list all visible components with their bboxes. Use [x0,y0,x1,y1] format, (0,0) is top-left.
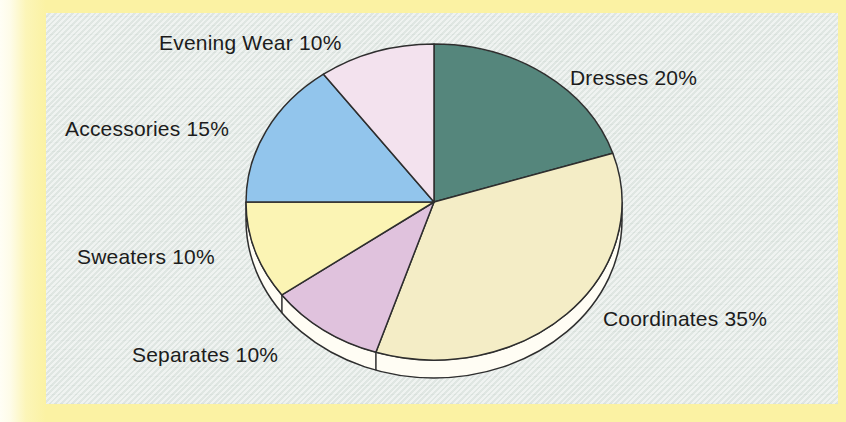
slice-label-separates: Separates 10% [132,343,278,367]
slice-label-sweaters: Sweaters 10% [77,245,215,269]
chart-panel: Evening Wear 10% Dresses 20% Accessories… [46,13,838,404]
page-background: Evening Wear 10% Dresses 20% Accessories… [0,0,846,422]
slice-label-dresses: Dresses 20% [570,66,697,90]
slice-label-coordinates: Coordinates 35% [603,307,767,331]
slice-label-accessories: Accessories 15% [65,117,229,141]
slice-label-evening-wear: Evening Wear 10% [159,31,342,55]
